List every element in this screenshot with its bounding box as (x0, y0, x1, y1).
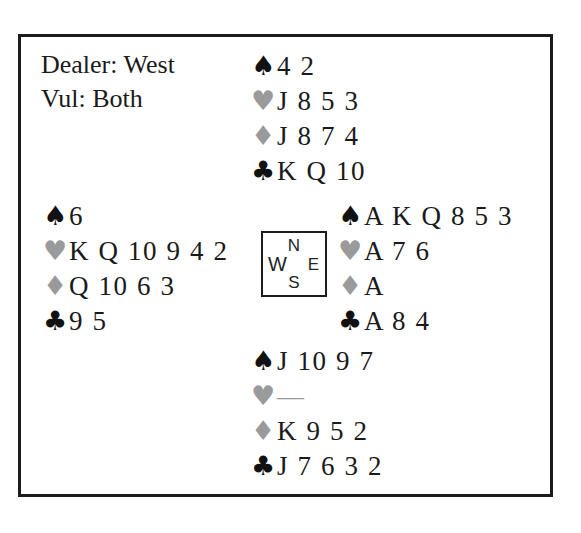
hand-north-spades-row: ♠ 4 2 (251, 48, 366, 83)
compass-east: E (308, 256, 319, 273)
hand-south-hearts: — (277, 379, 304, 414)
spade-icon: ♠ (251, 343, 277, 378)
hand-north-diamonds-row: ♦ J 8 7 4 (251, 118, 366, 153)
compass-west: W (268, 256, 287, 273)
hand-north-spades: 4 2 (277, 49, 316, 84)
spade-icon: ♠ (251, 48, 277, 83)
hand-west-spades-row: ♠ 6 (43, 198, 229, 233)
heart-icon: ♥ (43, 233, 69, 268)
hand-north-hearts: J 8 5 3 (277, 84, 360, 119)
hand-west-clubs-row: ♣ 9 5 (43, 303, 229, 338)
hand-east: ♠ A K Q 8 5 3 ♥ A 7 6 ♦ A ♣ A 8 4 (338, 198, 513, 338)
club-icon: ♣ (43, 303, 69, 338)
hand-north-hearts-row: ♥ J 8 5 3 (251, 83, 366, 118)
hand-west-hearts: K Q 10 9 4 2 (69, 234, 229, 269)
diamond-icon: ♦ (251, 413, 277, 448)
hand-south-hearts-row: ♥ — (251, 378, 383, 413)
compass-box: N W E S (261, 231, 327, 297)
club-icon: ♣ (251, 153, 277, 188)
diamond-icon: ♦ (338, 268, 364, 303)
hand-south-spades-row: ♠ J 10 9 7 (251, 343, 383, 378)
diamond-icon: ♦ (43, 268, 69, 303)
hand-west-hearts-row: ♥ K Q 10 9 4 2 (43, 233, 229, 268)
hand-south-clubs-row: ♣ J 7 6 3 2 (251, 448, 383, 483)
spade-icon: ♠ (338, 198, 364, 233)
heart-icon: ♥ (251, 378, 277, 413)
hand-west: ♠ 6 ♥ K Q 10 9 4 2 ♦ Q 10 6 3 ♣ 9 5 (43, 198, 229, 338)
bridge-deal-diagram: Dealer: West Vul: Both ♠ 4 2 ♥ J 8 5 3 ♦… (18, 34, 553, 497)
hand-west-diamonds-row: ♦ Q 10 6 3 (43, 268, 229, 303)
hand-north-clubs: K Q 10 (277, 154, 366, 189)
dealer-label: Dealer: West (41, 48, 175, 82)
club-icon: ♣ (338, 303, 364, 338)
hand-west-spades: 6 (69, 199, 84, 234)
deal-info: Dealer: West Vul: Both (41, 48, 175, 116)
hand-east-hearts-row: ♥ A 7 6 (338, 233, 513, 268)
hand-south-spades: J 10 9 7 (277, 344, 375, 379)
diamond-icon: ♦ (251, 118, 277, 153)
hand-east-diamonds-row: ♦ A (338, 268, 513, 303)
heart-icon: ♥ (251, 83, 277, 118)
hand-east-hearts: A 7 6 (364, 234, 431, 269)
compass-north: N (288, 237, 300, 254)
hand-south-diamonds-row: ♦ K 9 5 2 (251, 413, 383, 448)
hand-east-diamonds: A (364, 269, 385, 304)
hand-west-clubs: 9 5 (69, 304, 108, 339)
hand-west-diamonds: Q 10 6 3 (69, 269, 176, 304)
spade-icon: ♠ (43, 198, 69, 233)
hand-east-spades-row: ♠ A K Q 8 5 3 (338, 198, 513, 233)
hand-north-diamonds: J 8 7 4 (277, 119, 360, 154)
hand-east-clubs: A 8 4 (364, 304, 431, 339)
vulnerability-label: Vul: Both (41, 82, 175, 116)
compass-south: S (288, 274, 299, 291)
hand-north: ♠ 4 2 ♥ J 8 5 3 ♦ J 8 7 4 ♣ K Q 10 (251, 48, 366, 188)
hand-south-clubs: J 7 6 3 2 (277, 449, 383, 484)
heart-icon: ♥ (338, 233, 364, 268)
hand-south: ♠ J 10 9 7 ♥ — ♦ K 9 5 2 ♣ J 7 6 3 2 (251, 343, 383, 483)
hand-east-clubs-row: ♣ A 8 4 (338, 303, 513, 338)
hand-east-spades: A K Q 8 5 3 (364, 199, 513, 234)
club-icon: ♣ (251, 448, 277, 483)
hand-north-clubs-row: ♣ K Q 10 (251, 153, 366, 188)
hand-south-diamonds: K 9 5 2 (277, 414, 369, 449)
